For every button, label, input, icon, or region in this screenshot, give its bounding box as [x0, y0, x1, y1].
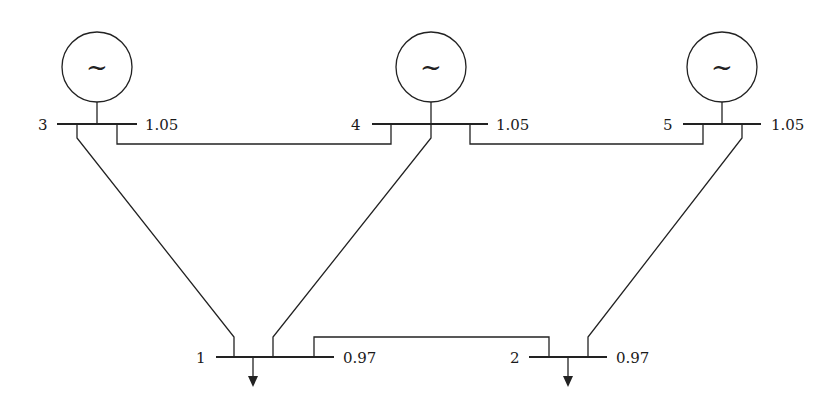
one-line-diagram: ~ ~ ~ 3 1.05 4 1.05 5 1.05 1 0.: [0, 0, 838, 411]
generator-4-tilde-icon: ~: [420, 52, 442, 82]
bus-4-voltage: 1.05: [496, 116, 529, 134]
line-3-1: [77, 124, 234, 357]
bus-4-label: 4: [351, 116, 361, 134]
generator-5-tilde-icon: ~: [711, 52, 733, 82]
bus-3-voltage: 1.05: [145, 116, 178, 134]
bus-1-label: 1: [196, 349, 206, 367]
load-arrow-2-icon: [563, 357, 573, 387]
line-4-1: [273, 124, 431, 357]
line-5-2: [588, 124, 742, 357]
bus-2-voltage: 0.97: [616, 349, 649, 367]
bus-5-label: 5: [663, 116, 673, 134]
bus-3-label: 3: [38, 116, 48, 134]
bus-5-voltage: 1.05: [771, 116, 804, 134]
generator-3: ~: [62, 32, 132, 124]
load-arrow-1-icon: [248, 357, 258, 387]
bus-1-voltage: 0.97: [343, 349, 376, 367]
generator-5: ~: [687, 32, 757, 124]
bus-2-label: 2: [510, 349, 520, 367]
generator-3-tilde-icon: ~: [86, 52, 108, 82]
generator-4: ~: [396, 32, 466, 124]
